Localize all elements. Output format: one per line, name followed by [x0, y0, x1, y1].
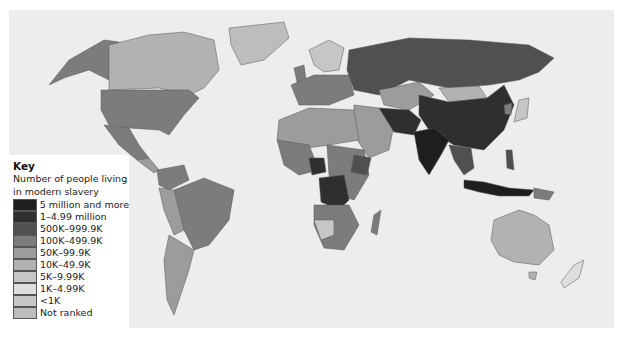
key-item: 500K–999.9K	[13, 223, 129, 235]
key-swatch	[13, 199, 37, 211]
region-russia	[347, 38, 554, 95]
key-item: 1K–4.99K	[13, 283, 129, 295]
region-scandinavia	[309, 40, 344, 72]
region-tasmania	[529, 272, 537, 280]
key-swatch	[13, 307, 37, 319]
key-item: 5K–9.99K	[13, 271, 129, 283]
key-subtitle-line1: Number of people living	[13, 173, 129, 185]
key-subtitle-line2: in modern slavery	[13, 186, 129, 198]
region-madagascar	[371, 210, 381, 235]
region-australia	[491, 210, 554, 265]
key-label: 5K–9.99K	[40, 271, 84, 283]
map-key: Key Number of people living in modern sl…	[9, 155, 129, 328]
region-korea	[504, 103, 512, 115]
key-item: 100K–499.9K	[13, 235, 129, 247]
region-philippines	[506, 150, 514, 170]
region-papua	[534, 188, 554, 200]
region-southeast-asia	[449, 145, 474, 175]
key-label: 10K–49.9K	[40, 259, 90, 271]
key-label: 1–4.99 million	[40, 211, 107, 223]
key-swatch	[13, 259, 37, 271]
key-list: 5 million and more1–4.99 million500K–999…	[13, 199, 129, 319]
key-swatch	[13, 235, 37, 247]
key-swatch	[13, 211, 37, 223]
key-item: Not ranked	[13, 307, 129, 319]
key-label: 100K–499.9K	[40, 235, 103, 247]
key-item: 50K–99.9K	[13, 247, 129, 259]
key-label: 5 million and more	[40, 199, 129, 211]
key-label: Not ranked	[40, 307, 92, 319]
key-swatch	[13, 295, 37, 307]
world-map: Key Number of people living in modern sl…	[9, 10, 614, 328]
key-label: 1K–4.99K	[40, 283, 84, 295]
region-central-america	[137, 158, 159, 173]
region-nigeria	[309, 158, 326, 175]
region-alaska	[49, 40, 119, 85]
key-swatch	[13, 223, 37, 235]
region-argentina-chile	[164, 235, 194, 315]
key-swatch	[13, 283, 37, 295]
key-item: <1K	[13, 295, 129, 307]
region-canada	[109, 32, 219, 95]
region-japan	[514, 98, 529, 122]
key-label: 50K–99.9K	[40, 247, 90, 259]
key-item: 1–4.99 million	[13, 211, 129, 223]
key-label: 500K–999.9K	[40, 223, 103, 235]
key-item: 5 million and more	[13, 199, 129, 211]
region-new-zealand	[561, 260, 584, 288]
key-swatch	[13, 247, 37, 259]
key-item: 10K–49.9K	[13, 259, 129, 271]
key-label: <1K	[40, 295, 60, 307]
region-greenland	[229, 22, 289, 65]
key-title: Key	[13, 159, 129, 173]
region-indonesia	[464, 180, 534, 196]
key-swatch	[13, 271, 37, 283]
